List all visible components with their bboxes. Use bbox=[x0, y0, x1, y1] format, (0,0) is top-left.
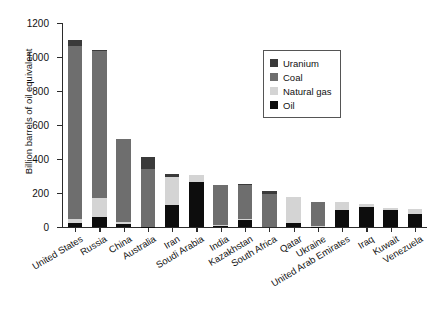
legend-label: Uranium bbox=[283, 58, 319, 69]
bar-segment-uranium bbox=[141, 157, 156, 169]
legend-swatch-icon bbox=[270, 73, 278, 81]
y-tick-label: 1200 bbox=[27, 18, 49, 29]
y-tick: 600 bbox=[57, 125, 63, 126]
y-tick: 1200 bbox=[57, 23, 63, 24]
y-tick: 1000 bbox=[57, 57, 63, 58]
legend-item: Oil bbox=[270, 98, 332, 112]
plot-area: 020040060080010001200 bbox=[63, 23, 427, 227]
y-tick-label: 600 bbox=[32, 120, 49, 131]
bar bbox=[92, 50, 107, 227]
bar-segment-oil bbox=[189, 182, 204, 227]
y-tick: 800 bbox=[57, 91, 63, 92]
legend-label: Coal bbox=[283, 72, 303, 83]
legend-swatch-icon bbox=[270, 87, 278, 95]
bar bbox=[68, 40, 83, 227]
y-tick-label: 1000 bbox=[27, 52, 49, 63]
bar-segment-natural-gas bbox=[165, 177, 180, 205]
legend-item: Natural gas bbox=[270, 84, 332, 98]
y-tick-label: 200 bbox=[32, 188, 49, 199]
y-tick: 0 bbox=[57, 227, 63, 228]
y-tick: 200 bbox=[57, 193, 63, 194]
stacked-bar-chart: Billion barrels of oil equivalent 020040… bbox=[0, 0, 438, 326]
y-tick-label: 400 bbox=[32, 154, 49, 165]
x-axis-labels: United StatesRussiaChinaAustraliaIranSou… bbox=[63, 229, 438, 324]
bar-segment-natural-gas bbox=[189, 175, 204, 183]
legend-item: Coal bbox=[270, 70, 332, 84]
legend-item: Uranium bbox=[270, 56, 332, 70]
legend-swatch-icon bbox=[270, 101, 278, 109]
y-tick-label: 800 bbox=[32, 86, 49, 97]
bar-segment-oil bbox=[68, 223, 83, 227]
legend-label: Natural gas bbox=[283, 86, 332, 97]
bar-segment-coal bbox=[141, 169, 156, 227]
legend: UraniumCoalNatural gasOil bbox=[263, 50, 341, 118]
legend-swatch-icon bbox=[270, 59, 278, 67]
bar-segment-coal bbox=[68, 46, 83, 219]
y-tick-label: 0 bbox=[43, 222, 49, 233]
y-axis-label: Billion barrels of oil equivalent bbox=[23, 22, 34, 202]
bar bbox=[189, 175, 204, 227]
legend-label: Oil bbox=[283, 100, 295, 111]
bar-segment-coal bbox=[92, 51, 107, 198]
bar-segment-natural-gas bbox=[92, 198, 107, 217]
y-tick: 400 bbox=[57, 159, 63, 160]
bar-segment-natural-gas bbox=[335, 202, 350, 210]
bar bbox=[141, 157, 156, 227]
